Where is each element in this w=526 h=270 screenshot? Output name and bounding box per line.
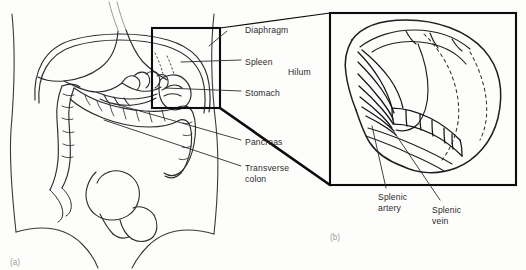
label-transverse-colon: Transverse colon [245, 163, 289, 184]
torso-outline [10, 14, 217, 268]
stomach-outline [38, 30, 167, 92]
gastric-impression [372, 41, 466, 130]
appendix [50, 188, 71, 222]
figure-canvas: Diaphragm Spleen Hilum Stomach Pancreas … [0, 0, 526, 270]
pancreatic-tail [392, 108, 462, 156]
label-hilum: Hilum [288, 67, 311, 78]
colon-haustra [62, 94, 192, 160]
label-diaphragm: Diaphragm [245, 25, 288, 36]
anatomy-illustration [0, 0, 526, 270]
inset-frame [330, 13, 516, 185]
label-pancreas: Pancreas [245, 137, 283, 148]
colon-outline [50, 84, 195, 190]
caption-panel-a: (a) [10, 258, 20, 267]
esophagus [109, 2, 126, 30]
label-stomach: Stomach [245, 88, 280, 99]
magnification-connectors [220, 13, 330, 185]
spleen-outline-panel-a [159, 75, 191, 110]
small-intestine [86, 171, 157, 242]
caption-panel-b: (b) [330, 233, 340, 242]
label-spleen: Spleen [245, 57, 273, 68]
diaphragm-outline [35, 34, 210, 113]
hilum-vessels [358, 50, 403, 135]
label-splenic-artery: Splenic artery [378, 192, 407, 213]
spleen-dashed-margin [424, 34, 487, 160]
hilum-lower-vessels [366, 128, 452, 171]
spleen-superior-notches [360, 30, 470, 51]
label-splenic-vein: Splenic vein [432, 205, 461, 226]
